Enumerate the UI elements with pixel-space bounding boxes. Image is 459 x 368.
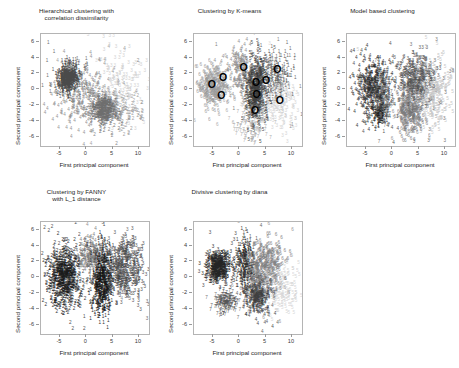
svg-text:2: 2 [47,255,50,260]
svg-text:4: 4 [355,55,358,60]
svg-text:3: 3 [102,34,105,39]
svg-text:6: 6 [266,255,269,260]
svg-text:4: 4 [256,295,259,300]
svg-text:4: 4 [238,39,241,44]
svg-text:3: 3 [281,133,284,138]
x-axis-label: First principal component [346,161,454,168]
svg-text:5: 5 [284,271,287,276]
x-tick-mark [212,146,213,149]
svg-text:3: 3 [119,281,122,286]
svg-text:4: 4 [237,34,240,35]
svg-text:6: 6 [426,104,429,109]
svg-text:4: 4 [234,67,237,72]
svg-text:5: 5 [444,64,447,69]
svg-text:4: 4 [89,82,92,87]
svg-text:1: 1 [97,270,100,275]
svg-text:6: 6 [286,256,289,261]
svg-text:4: 4 [371,77,374,82]
svg-text:6: 6 [280,235,283,240]
y-tick-mark [342,88,345,89]
svg-text:5: 5 [300,293,302,298]
svg-text:3: 3 [209,230,212,235]
y-tick-mark [36,308,39,309]
plot-area-hierarchical: 2224122141421111112443412244142242111422… [40,33,150,147]
x-axis-label: First principal component [193,161,301,168]
svg-text:1: 1 [290,73,293,78]
svg-text:4: 4 [88,123,91,128]
svg-text:2: 2 [115,101,118,106]
svg-text:4: 4 [353,48,356,53]
svg-text:7: 7 [260,128,263,133]
svg-text:2: 2 [132,116,135,121]
svg-text:4: 4 [88,97,91,102]
y-tick-mark [36,57,39,58]
svg-text:2: 2 [93,90,96,95]
svg-text:3: 3 [121,264,124,269]
svg-text:3: 3 [208,253,211,258]
svg-text:7: 7 [385,115,388,120]
svg-text:6: 6 [266,242,269,247]
svg-text:5: 5 [260,101,263,106]
svg-text:3: 3 [147,267,149,272]
svg-text:3: 3 [285,89,288,94]
svg-text:6: 6 [273,251,276,256]
svg-text:4: 4 [362,129,365,134]
svg-text:5: 5 [425,44,428,49]
svg-text:4: 4 [260,300,263,305]
svg-text:5: 5 [450,75,453,80]
svg-text:1: 1 [77,61,80,66]
svg-text:2: 2 [70,251,73,256]
svg-text:4: 4 [356,123,359,128]
svg-text:4: 4 [264,320,267,325]
svg-text:6: 6 [237,222,240,224]
svg-text:3: 3 [285,131,288,136]
svg-text:2: 2 [66,281,69,286]
svg-text:3: 3 [439,66,442,71]
svg-text:4: 4 [351,90,354,95]
svg-text:2: 2 [43,225,46,230]
x-tick-label: 10 [128,150,148,156]
x-tick-mark [291,334,292,337]
svg-text:4: 4 [76,109,79,114]
svg-text:5: 5 [444,107,447,112]
svg-text:4: 4 [99,74,102,79]
svg-text:1: 1 [47,40,50,45]
svg-text:6: 6 [263,266,266,271]
svg-text:1: 1 [70,71,73,76]
svg-text:3: 3 [132,235,135,240]
svg-text:3: 3 [128,290,131,295]
svg-text:3: 3 [131,226,134,231]
svg-text:3: 3 [120,300,123,305]
svg-text:3: 3 [87,34,90,37]
svg-text:3: 3 [433,77,436,82]
svg-text:4: 4 [368,127,371,132]
cluster-center-marker: O [219,71,227,83]
y-tick-mark [189,245,192,246]
svg-text:6: 6 [276,263,279,268]
svg-text:3: 3 [128,76,131,81]
y-tick-mark [342,104,345,105]
svg-text:1: 1 [102,263,105,268]
svg-text:4: 4 [63,112,66,117]
svg-text:2: 2 [54,290,57,295]
svg-text:4: 4 [90,141,93,146]
svg-text:1: 1 [381,117,384,122]
svg-text:6: 6 [250,253,253,258]
panel-diana: Divisive clustering by diana631647416343… [153,180,306,368]
svg-text:4: 4 [94,74,97,79]
svg-text:5: 5 [262,127,265,132]
clustering-figure: Hierarchical clustering with correlation… [0,0,459,368]
svg-text:2: 2 [133,92,136,97]
svg-text:4: 4 [230,71,233,76]
svg-text:2: 2 [55,254,58,259]
svg-text:1: 1 [248,265,251,270]
svg-text:4: 4 [389,41,392,46]
svg-text:1: 1 [96,261,99,266]
svg-text:4: 4 [69,95,72,100]
svg-text:2: 2 [104,120,107,125]
svg-text:3: 3 [421,45,424,50]
svg-text:2: 2 [78,286,81,291]
svg-text:5: 5 [267,117,270,122]
svg-text:1: 1 [236,237,239,242]
svg-text:6: 6 [208,117,211,122]
